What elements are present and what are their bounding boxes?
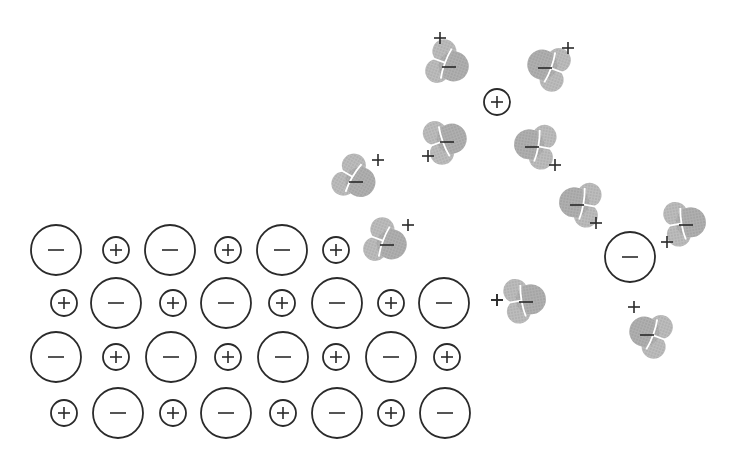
cation-ion: [434, 344, 460, 370]
loose-charge-labels: [491, 294, 503, 306]
cation-ion: [323, 237, 349, 263]
lattice-row-4: [51, 388, 470, 438]
anion-ion: [145, 225, 195, 275]
water-molecule: [622, 301, 676, 362]
anion-ion: [419, 278, 469, 328]
cation-ion: [160, 290, 186, 316]
partial-positive-charge-icon: [402, 219, 414, 231]
anion-ion: [258, 332, 308, 382]
anion-ion: [420, 388, 470, 438]
anion-ion: [201, 278, 251, 328]
cation-ion: [215, 237, 241, 263]
cation-ion: [323, 344, 349, 370]
partial-positive-charge-icon: [372, 154, 384, 166]
anion-ion: [91, 278, 141, 328]
water-molecule: [419, 112, 473, 168]
anion-ion: [31, 332, 81, 382]
lattice-row-1: [31, 225, 349, 275]
ionic-crystal-lattice: [31, 225, 470, 438]
cation-ion: [103, 237, 129, 263]
cation-ion: [269, 290, 295, 316]
water-molecule: [360, 214, 414, 270]
water-molecule: [555, 178, 603, 229]
anion-ion: [201, 388, 251, 438]
water-molecule: [520, 39, 574, 95]
partial-positive-charge-icon: [628, 301, 640, 313]
cation-ion: [51, 290, 77, 316]
anion-ion: [366, 332, 416, 382]
lattice-row-3: [31, 332, 460, 382]
cation-ion: [51, 400, 77, 426]
water-molecule: [661, 197, 710, 248]
ionic-dissolution-diagram: [0, 0, 755, 463]
lattice-edge-cation-charge: [491, 294, 503, 306]
lattice-row-2: [51, 278, 469, 328]
cation-ion: [270, 400, 296, 426]
water-molecule: [327, 149, 385, 208]
cation-ion: [378, 400, 404, 426]
cation-ion: [160, 400, 186, 426]
anion-ion: [146, 332, 196, 382]
anion-ion: [312, 278, 362, 328]
anion-ion: [31, 225, 81, 275]
water-molecule: [422, 32, 476, 92]
diagram-canvas: [0, 0, 755, 463]
dissolved-cation: [484, 89, 510, 115]
anion-ion: [257, 225, 307, 275]
dissolved-anion: [605, 232, 655, 282]
water-molecule: [510, 120, 561, 171]
cation-ion: [103, 344, 129, 370]
dissolved-ions: [484, 89, 655, 282]
anion-ion: [312, 388, 362, 438]
cation-ion: [215, 344, 241, 370]
anion-ion: [93, 388, 143, 438]
cation-ion: [378, 290, 404, 316]
